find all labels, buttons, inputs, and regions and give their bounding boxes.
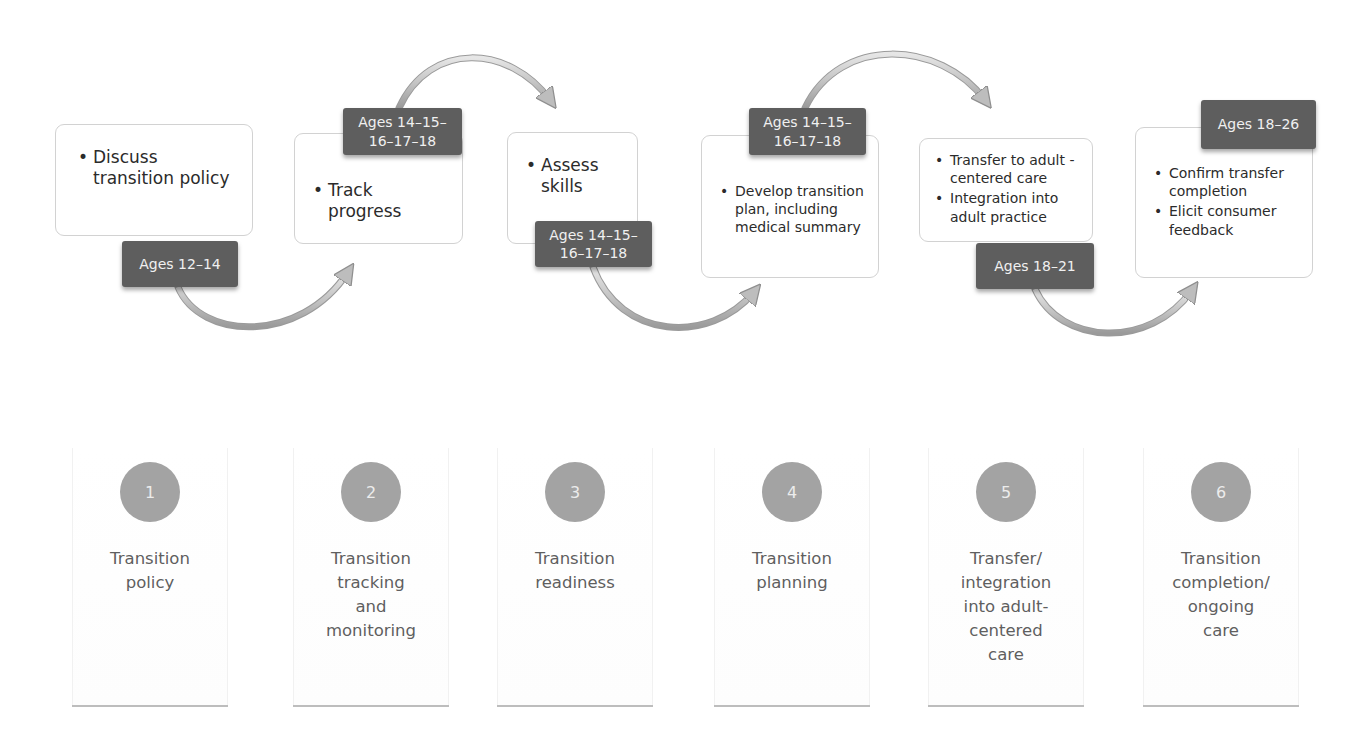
- step-5-age-tag: Ages 18–21: [976, 243, 1094, 289]
- step-label: Transition completion/ ongoing care: [1144, 547, 1298, 643]
- step-label: Transition readiness: [498, 547, 652, 595]
- step-5-bullet-2: Integration into adult practice: [933, 189, 1086, 225]
- step-label: Transition policy: [73, 547, 227, 595]
- step-card-4: 4 Transition planning: [714, 448, 870, 705]
- step-card-2: 2 Transition tracking and monitoring: [293, 448, 449, 705]
- step-3-bullet-1: Assess skills: [524, 155, 627, 196]
- step-number-badge: 3: [545, 462, 605, 522]
- step-4-action-box: Develop transition plan, including medic…: [701, 135, 879, 278]
- step-6-bullet-1: Confirm transfer completion: [1152, 164, 1304, 200]
- step-2-age-tag: Ages 14–15– 16–17–18: [343, 108, 462, 155]
- step-1-age-tag: Ages 12–14: [122, 241, 238, 287]
- step-number-badge: 2: [341, 462, 401, 522]
- step-card-1: 1 Transition policy: [72, 448, 228, 705]
- step-label: Transition planning: [715, 547, 869, 595]
- step-number-badge: 5: [976, 462, 1036, 522]
- step-card-3: 3 Transition readiness: [497, 448, 653, 705]
- step-6-age-tag: Ages 18–26: [1201, 100, 1316, 149]
- step-5-action-box: Transfer to adult -centered care Integra…: [919, 138, 1093, 242]
- step-number-badge: 6: [1191, 462, 1251, 522]
- transition-process-diagram: Discuss transition policy Ages 12–14 Tra…: [0, 0, 1362, 739]
- step-card-5: 5 Transfer/ integration into adult- cent…: [928, 448, 1084, 705]
- step-label: Transition tracking and monitoring: [294, 547, 448, 643]
- arrow-2-to-3: [399, 58, 550, 108]
- step-6-action-box: Confirm transfer completion Elicit consu…: [1135, 127, 1313, 278]
- step-4-age-tag: Ages 14–15– 16–17–18: [749, 108, 866, 155]
- step-label: Transfer/ integration into adult- center…: [929, 547, 1083, 667]
- step-2-bullet-1: Track progress: [311, 180, 450, 221]
- step-card-6: 6 Transition completion/ ongoing care: [1143, 448, 1299, 705]
- step-4-bullet-1: Develop transition plan, including medic…: [718, 182, 870, 237]
- step-5-bullet-1: Transfer to adult -centered care: [933, 151, 1086, 187]
- arrow-4-to-5: [805, 54, 985, 108]
- step-6-bullet-2: Elicit consumer feedback: [1152, 202, 1304, 238]
- step-1-bullet-1: Discuss transition policy: [76, 147, 238, 188]
- step-1-action-box: Discuss transition policy: [55, 124, 253, 236]
- step-3-age-tag: Ages 14–15– 16–17–18: [535, 221, 652, 267]
- step-number-badge: 1: [120, 462, 180, 522]
- arrow-5-to-6: [1035, 289, 1192, 333]
- step-number-badge: 4: [762, 462, 822, 522]
